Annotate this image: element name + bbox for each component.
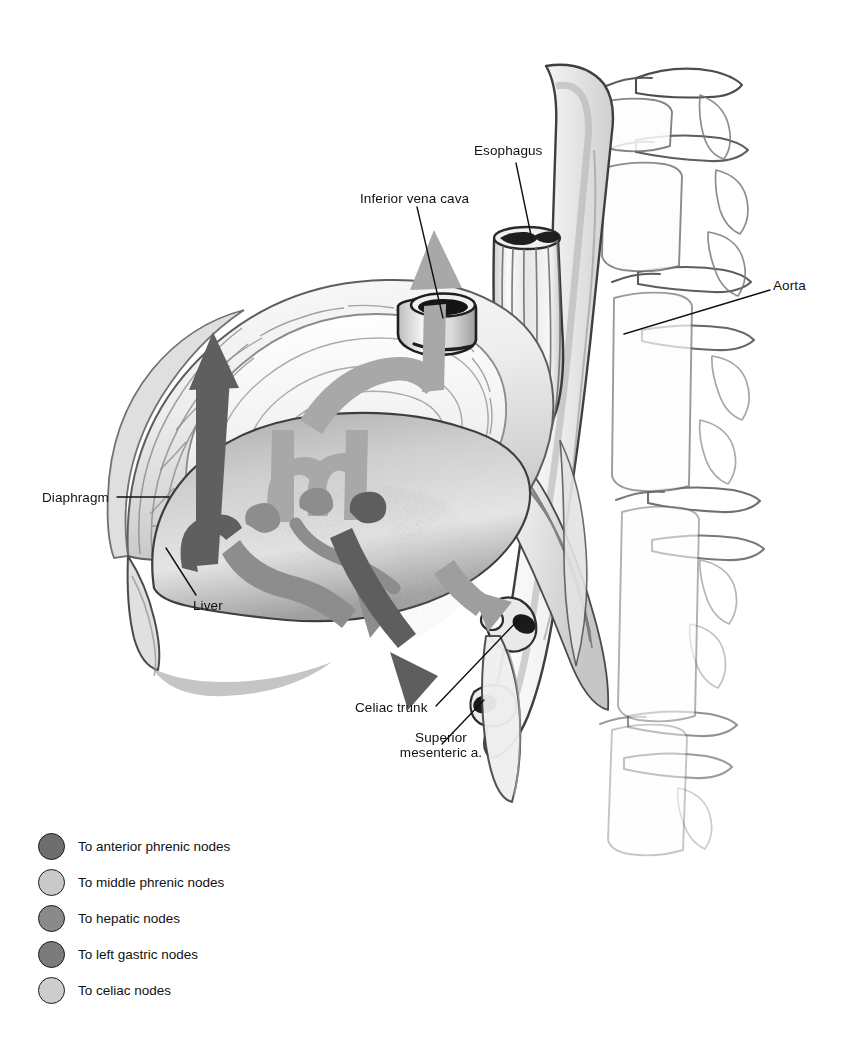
legend-label: To hepatic nodes [78, 911, 180, 926]
label-inferior-vena-cava: Inferior vena cava [360, 191, 469, 206]
legend-swatch-icon [38, 905, 65, 932]
legend-item-celiac: To celiac nodes [38, 972, 338, 1008]
label-diaphragm: Diaphragm [42, 490, 109, 505]
legend-label: To middle phrenic nodes [78, 875, 224, 890]
legend-label: To left gastric nodes [78, 947, 198, 962]
label-aorta: Aorta [773, 278, 806, 293]
label-superior-mesenteric-artery: Superior mesenteric a. [381, 730, 501, 760]
legend-item-left-gastric: To left gastric nodes [38, 936, 338, 972]
legend-swatch-icon [38, 833, 65, 860]
vertebral-column [594, 69, 764, 856]
label-liver: Liver [193, 598, 223, 613]
anatomical-figure: Inferior vena cava Esophagus Aorta Diaph… [0, 0, 851, 1055]
legend-label: To celiac nodes [78, 983, 171, 998]
legend-item-anterior-phrenic: To anterior phrenic nodes [38, 828, 338, 864]
legend-label: To anterior phrenic nodes [78, 839, 230, 854]
legend-item-middle-phrenic: To middle phrenic nodes [38, 864, 338, 900]
legend-swatch-icon [38, 977, 65, 1004]
label-esophagus: Esophagus [474, 143, 542, 158]
legend: To anterior phrenic nodes To middle phre… [38, 828, 338, 1008]
legend-swatch-icon [38, 869, 65, 896]
legend-item-hepatic: To hepatic nodes [38, 900, 338, 936]
legend-swatch-icon [38, 941, 65, 968]
label-celiac-trunk: Celiac trunk [355, 700, 427, 715]
